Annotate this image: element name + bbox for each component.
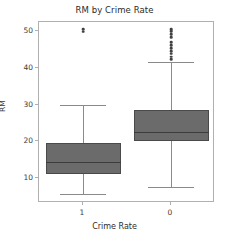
whisker-upper xyxy=(83,105,84,144)
plot-area xyxy=(39,22,213,201)
outlier-point xyxy=(170,47,173,50)
box-0 xyxy=(134,110,209,141)
x-tick-mark xyxy=(82,202,83,205)
y-tick-label: 20 xyxy=(0,136,33,145)
y-tick-label: 50 xyxy=(0,26,33,35)
outlier-point xyxy=(170,55,173,58)
median-line xyxy=(46,162,121,163)
axes-frame xyxy=(38,21,214,202)
outlier-point xyxy=(170,36,173,39)
outlier-point xyxy=(170,50,173,53)
median-line xyxy=(134,132,209,133)
y-tick-label: 10 xyxy=(0,173,33,182)
outlier-point xyxy=(170,28,173,31)
cap-upper xyxy=(60,105,107,106)
cap-lower xyxy=(148,187,195,188)
x-tick-mark xyxy=(170,202,171,205)
figure: RM by Crime Rate RM 1020304050 10 Crime … xyxy=(0,0,229,240)
outlier-point xyxy=(82,28,85,31)
outlier-point xyxy=(170,33,173,36)
cap-upper xyxy=(148,62,195,63)
box-1 xyxy=(46,143,121,173)
x-tick-label: 1 xyxy=(80,208,85,217)
whisker-lower xyxy=(171,141,172,187)
whisker-upper xyxy=(171,62,172,110)
outlier-point xyxy=(170,41,173,44)
y-axis-label: RM xyxy=(0,100,7,112)
outlier-point xyxy=(170,52,173,55)
y-tick-label: 40 xyxy=(0,62,33,71)
page-title: RM by Crime Rate xyxy=(0,5,229,15)
cap-lower xyxy=(60,194,107,195)
outlier-point xyxy=(170,44,173,47)
outlier-point xyxy=(82,30,85,33)
x-axis-label: Crime Rate xyxy=(0,222,229,231)
outlier-point xyxy=(170,58,173,61)
x-tick-label: 0 xyxy=(168,208,173,217)
whisker-lower xyxy=(83,174,84,195)
